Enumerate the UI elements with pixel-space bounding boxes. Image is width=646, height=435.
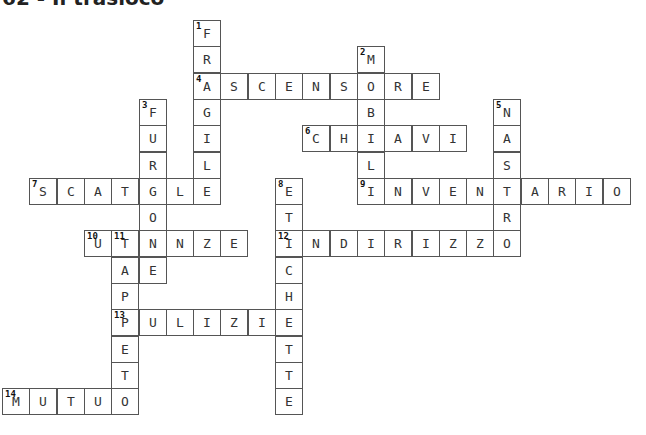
crossword-cell[interactable]: U (139, 309, 167, 336)
crossword-cell[interactable]: T (111, 178, 139, 205)
crossword-cell[interactable]: I9 (357, 178, 385, 205)
crossword-cell[interactable]: E (111, 336, 139, 363)
crossword-cell[interactable]: O (357, 73, 385, 100)
crossword-cell[interactable]: C (248, 73, 276, 100)
crossword-cell[interactable]: L (193, 152, 221, 179)
crossword-cell[interactable]: D (330, 230, 358, 257)
crossword-cell[interactable]: N (139, 230, 167, 257)
cell-letter: G (149, 184, 157, 199)
crossword-cell[interactable]: U (84, 388, 112, 415)
crossword-cell[interactable]: T (275, 362, 303, 389)
crossword-cell[interactable]: C (57, 178, 85, 205)
clue-number: 14 (5, 389, 16, 399)
crossword-cell[interactable]: O (493, 230, 521, 257)
crossword-cell[interactable]: B (357, 99, 385, 126)
crossword-cell[interactable]: R (139, 152, 167, 179)
crossword-cell[interactable]: S (330, 73, 358, 100)
crossword-cell[interactable]: Z (466, 230, 494, 257)
crossword-cell[interactable]: E (412, 73, 440, 100)
clue-number: 3 (142, 100, 147, 110)
crossword-cell[interactable]: E (193, 178, 221, 205)
crossword-cell[interactable]: C6 (302, 125, 330, 152)
crossword-cell[interactable]: R (493, 204, 521, 231)
crossword-cell[interactable]: L (357, 152, 385, 179)
crossword-cell[interactable]: O (603, 178, 631, 205)
crossword-cell[interactable]: P13 (111, 309, 139, 336)
crossword-cell[interactable]: V (412, 125, 440, 152)
crossword-cell[interactable]: M2 (357, 46, 385, 73)
crossword-cell[interactable]: A (493, 125, 521, 152)
crossword-cell[interactable]: O (139, 204, 167, 231)
clue-number: 13 (114, 310, 125, 320)
crossword-cell[interactable]: T (275, 204, 303, 231)
crossword-cell[interactable]: A (84, 178, 112, 205)
crossword-cell[interactable]: A (521, 178, 549, 205)
crossword-cell[interactable]: R (548, 178, 576, 205)
crossword-cell[interactable]: F1 (193, 20, 221, 47)
crossword-cell[interactable]: I (357, 125, 385, 152)
crossword-cell[interactable]: I (412, 230, 440, 257)
crossword-cell[interactable]: L (166, 178, 194, 205)
crossword-cell[interactable]: E (139, 257, 167, 284)
crossword-cell[interactable]: N (466, 178, 494, 205)
crossword-cell[interactable]: H (275, 283, 303, 310)
cell-letter: Z (230, 315, 238, 330)
crossword-cell[interactable]: U (29, 388, 57, 415)
crossword-cell[interactable]: R (384, 230, 412, 257)
crossword-cell[interactable]: T (275, 336, 303, 363)
crossword-cell[interactable]: Z (439, 230, 467, 257)
crossword-cell[interactable]: E (439, 178, 467, 205)
crossword-cell[interactable]: E8 (275, 178, 303, 205)
crossword-cell[interactable]: L (166, 309, 194, 336)
crossword-cell[interactable]: A (384, 125, 412, 152)
crossword-cell[interactable]: T (493, 178, 521, 205)
cell-letter: I (585, 184, 593, 199)
cell-letter: T (121, 368, 129, 383)
crossword-cell[interactable]: S (220, 73, 248, 100)
crossword-cell[interactable]: S (493, 152, 521, 179)
crossword-cell[interactable]: T (111, 362, 139, 389)
crossword-cell[interactable]: I (193, 125, 221, 152)
cell-letter: F (149, 105, 157, 120)
crossword-cell[interactable]: I12 (275, 230, 303, 257)
crossword-cell[interactable]: N (302, 230, 330, 257)
crossword-cell[interactable]: R (193, 46, 221, 73)
crossword-cell[interactable]: N (302, 73, 330, 100)
crossword-cell[interactable]: E (275, 73, 303, 100)
crossword-cell[interactable]: H (330, 125, 358, 152)
crossword-cell[interactable]: G (139, 178, 167, 205)
crossword-cell[interactable]: U (139, 125, 167, 152)
crossword-cell[interactable]: E (275, 309, 303, 336)
crossword-cell[interactable]: T (57, 388, 85, 415)
crossword-cell[interactable]: U10 (84, 230, 112, 257)
cell-letter: I (422, 236, 430, 251)
crossword-cell[interactable]: T11 (111, 230, 139, 257)
crossword-cell[interactable]: I (248, 309, 276, 336)
crossword-cell[interactable]: A4 (193, 73, 221, 100)
crossword-cell[interactable]: R (384, 73, 412, 100)
crossword-cell[interactable]: V (412, 178, 440, 205)
crossword-cell[interactable]: C (275, 257, 303, 284)
crossword-cell[interactable]: I (193, 309, 221, 336)
crossword-cell[interactable]: I (439, 125, 467, 152)
crossword-cell[interactable]: F3 (139, 99, 167, 126)
cell-letter: R (558, 184, 566, 199)
crossword-cell[interactable]: N (384, 178, 412, 205)
crossword-cell[interactable]: Z (220, 309, 248, 336)
crossword-cell[interactable]: N5 (493, 99, 521, 126)
crossword-cell[interactable]: G (193, 99, 221, 126)
cell-letter: L (367, 158, 375, 173)
crossword-cell[interactable]: M14 (2, 388, 30, 415)
crossword-cell[interactable]: A (111, 257, 139, 284)
crossword-cell[interactable]: Z (193, 230, 221, 257)
crossword-cell[interactable]: P (111, 283, 139, 310)
cell-letter: A (94, 184, 102, 199)
crossword-cell[interactable]: E (275, 388, 303, 415)
crossword-cell[interactable]: I (357, 230, 385, 257)
crossword-cell[interactable]: S7 (29, 178, 57, 205)
crossword-cell[interactable]: N (166, 230, 194, 257)
crossword-cell[interactable]: O (111, 388, 139, 415)
crossword-cell[interactable]: I (575, 178, 603, 205)
cell-letter: O (613, 184, 621, 199)
crossword-cell[interactable]: E (220, 230, 248, 257)
